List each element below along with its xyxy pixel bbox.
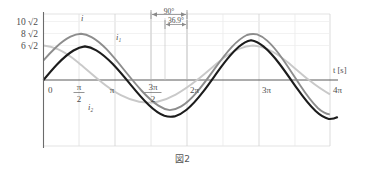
x-tick-2pi: 2π — [190, 85, 200, 95]
curve-label-i1: i₁ — [116, 32, 121, 42]
x-tick-0: 0 — [48, 85, 53, 95]
waveform-chart: 10 √2 8 √2 6 √2 0 π 2 π 3π 2 2π 3π 4π — [0, 0, 365, 173]
annotation-label-36-9: 36.9° — [168, 16, 184, 25]
y-tick-10root2: 10 √2 — [16, 17, 38, 27]
x-tick-pi-over-2-numerator: π — [77, 82, 82, 92]
x-tick-3pi-over-2-denominator: 2 — [151, 94, 156, 104]
x-tick-4pi: 4π — [333, 85, 343, 95]
figure-caption: 図2 — [0, 152, 365, 165]
y-tick-6root2: 6 √2 — [21, 41, 38, 51]
x-tick-3pi-over-2-numerator: 3π — [148, 82, 158, 92]
x-tick-pi-over-2-denominator: 2 — [77, 94, 82, 104]
figure-container: 10 √2 8 √2 6 √2 0 π 2 π 3π 2 2π 3π 4π — [0, 0, 365, 173]
x-axis-label: t [s] — [333, 65, 347, 75]
x-tick-3pi: 3π — [262, 85, 272, 95]
y-tick-labels: 10 √2 8 √2 6 √2 — [16, 17, 38, 51]
annotation-36-9-degrees: 36.9° — [165, 16, 187, 80]
y-tick-8root2: 8 √2 — [21, 29, 38, 39]
curve-label-i2: i₂ — [88, 102, 93, 112]
annotation-label-90: 90° — [164, 7, 175, 16]
x-tick-pi: π — [110, 85, 115, 95]
